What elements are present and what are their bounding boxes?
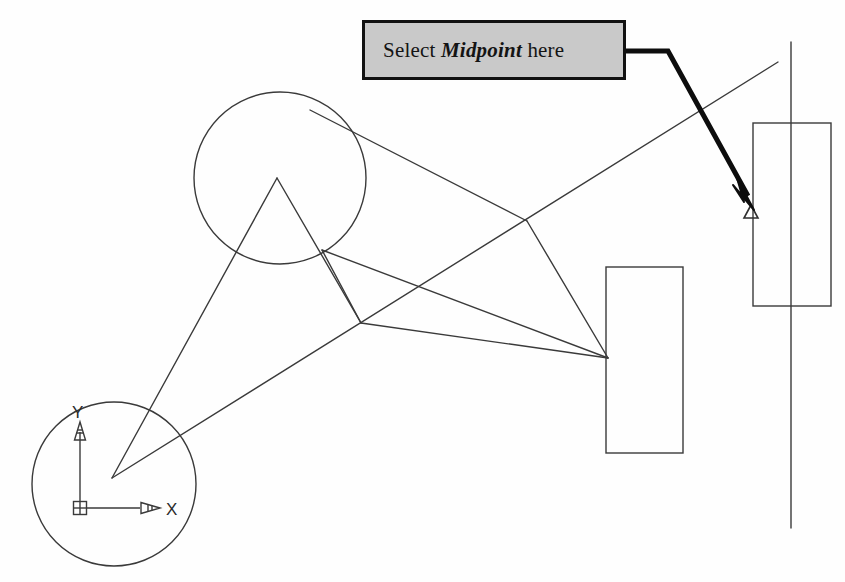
callout-box: Select Midpoint here (362, 20, 626, 80)
middle-rectangle[interactable] (606, 267, 683, 453)
upper-vertex-to-rect-line[interactable] (527, 221, 608, 358)
lower-vertex-to-rect-line[interactable] (361, 323, 608, 358)
callout-text-prefix: Select (383, 38, 441, 62)
apex-to-lower-vertex-line[interactable] (277, 178, 361, 323)
callout-text-emphasis: Midpoint (441, 38, 522, 62)
cad-drawing-canvas[interactable] (0, 0, 845, 582)
ucs-y-axis-label: Y (72, 403, 83, 423)
geometry-layer (32, 42, 831, 566)
ucs-circle[interactable] (32, 402, 196, 566)
ucs-x-axis-arrowhead (141, 503, 160, 514)
right-rectangle[interactable] (753, 123, 831, 306)
circle-tangent-to-lower-vertex-line[interactable] (322, 250, 361, 323)
circle-edge-to-upper-vertex-line[interactable] (310, 110, 527, 221)
ucs-x-axis-label: X (166, 500, 177, 520)
apex-to-origin-line[interactable] (112, 178, 277, 478)
callout-text: Select Midpoint here (383, 38, 564, 63)
upper-circle[interactable] (194, 92, 366, 264)
cad-figure-page: Select Midpoint here Y X (0, 0, 845, 582)
circle-edge-to-rect-upper-line[interactable] (322, 250, 608, 358)
leader-line (626, 51, 748, 196)
callout-leader (626, 51, 754, 210)
callout-text-suffix: here (522, 38, 564, 62)
